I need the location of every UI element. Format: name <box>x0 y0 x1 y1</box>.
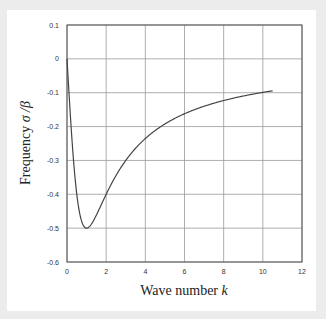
x-tick-label: 12 <box>298 268 306 275</box>
frequency-curve <box>67 59 273 228</box>
y-tick-label: 0 <box>55 55 59 62</box>
grid <box>67 25 302 262</box>
line-chart: 024681012 0.10-0.1-0.2-0.3-0.4-0.5-0.6 W… <box>0 0 326 319</box>
y-axis-label: Frequency σ /β <box>18 101 33 185</box>
x-tick-label: 4 <box>143 268 147 275</box>
x-tick-label: 8 <box>222 268 226 275</box>
y-tick-label: -0.4 <box>47 191 59 198</box>
y-tick-label: -0.1 <box>47 89 59 96</box>
x-tick-label: 6 <box>183 268 187 275</box>
y-tick-label: -0.5 <box>47 225 59 232</box>
x-axis-ticks: 024681012 <box>65 268 306 275</box>
y-tick-label: -0.6 <box>47 259 59 266</box>
y-tick-label: 0.1 <box>49 22 59 29</box>
y-axis-ticks: 0.10-0.1-0.2-0.3-0.4-0.5-0.6 <box>47 22 59 266</box>
x-tick-label: 0 <box>65 268 69 275</box>
x-tick-label: 2 <box>104 268 108 275</box>
x-axis-label: Wave number k <box>140 283 228 298</box>
x-tick-label: 10 <box>259 268 267 275</box>
y-tick-label: -0.3 <box>47 157 59 164</box>
y-tick-label: -0.2 <box>47 123 59 130</box>
